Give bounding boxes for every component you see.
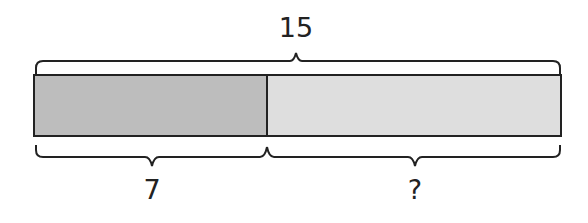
part-unknown-brace (267, 145, 560, 166)
part-known-brace (36, 145, 267, 166)
part-unknown-label: ? (395, 176, 435, 203)
part-unknown-segment (267, 75, 561, 136)
part-known-segment (34, 75, 267, 136)
total-brace (36, 53, 560, 77)
part-known-label: 7 (132, 176, 172, 203)
total-label: 15 (270, 14, 322, 41)
